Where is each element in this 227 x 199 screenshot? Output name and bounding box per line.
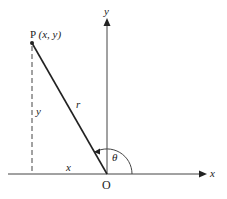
angle-label: θ <box>112 152 117 163</box>
point-p-label: P (x, y) <box>30 29 61 40</box>
y-axis-label: y <box>104 6 109 17</box>
y-axis-arrow-icon <box>104 18 111 26</box>
point-p-dot <box>30 41 34 45</box>
origin-label: O <box>102 179 111 191</box>
horizontal-leg-label: x <box>66 162 71 173</box>
x-axis-arrow-icon <box>199 171 207 178</box>
point-p-name: P <box>30 28 36 40</box>
radius-label: r <box>76 99 80 110</box>
point-p-coords: (x, y) <box>38 28 61 40</box>
x-axis-label: x <box>210 168 215 179</box>
radius-line <box>32 43 107 174</box>
vertical-leg-label: y <box>36 106 41 117</box>
